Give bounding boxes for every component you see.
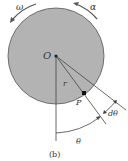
alpha-label: α	[90, 2, 96, 12]
rotating-disk-diagram: ω α O r P θ dθ (b)	[0, 0, 128, 161]
dtheta-label: dθ	[108, 109, 118, 118]
point-label: P	[75, 98, 82, 107]
figure-caption: (b)	[49, 150, 60, 159]
theta-arc-icon	[56, 116, 101, 133]
point-p	[82, 91, 86, 95]
omega-label: ω	[16, 2, 24, 12]
center-point	[54, 54, 57, 57]
theta-label: θ	[76, 137, 81, 146]
center-label: O	[43, 50, 51, 61]
